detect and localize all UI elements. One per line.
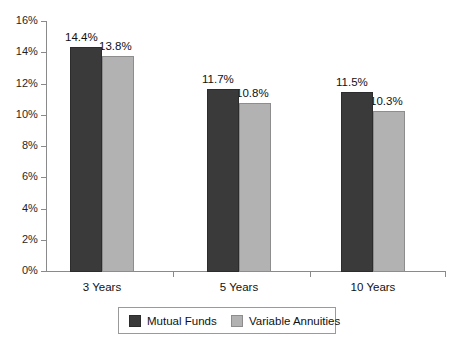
bar — [102, 56, 134, 272]
plot-area — [46, 16, 446, 272]
y-axis-tick-label: 16% — [0, 15, 38, 26]
legend-swatch-icon — [129, 315, 141, 327]
bar — [239, 103, 271, 272]
legend-entry-variable-annuities: Variable Annuities — [231, 314, 340, 328]
y-axis-tick-label: 10% — [0, 109, 38, 120]
y-axis-tick-label: 12% — [0, 78, 38, 89]
bar — [373, 111, 405, 272]
bar-chart: 0%2%4%6%8%10%12%14%16% 14.4%13.8%11.7%10… — [0, 0, 457, 348]
bar-value-label: 10.3% — [370, 95, 403, 107]
legend-swatch-icon — [231, 315, 243, 327]
bar — [341, 92, 373, 272]
bar-value-label: 13.8% — [99, 40, 132, 52]
bar — [207, 89, 239, 272]
legend-label: Mutual Funds — [147, 315, 217, 327]
y-axis-tick-label: 6% — [0, 171, 38, 182]
bar-value-label: 14.4% — [65, 31, 98, 43]
chart-legend: Mutual Funds Variable Annuities — [118, 307, 336, 334]
legend-entry-mutual-funds: Mutual Funds — [129, 314, 217, 328]
y-axis-tick-label: 2% — [0, 234, 38, 245]
category-label: 10 Years — [333, 281, 413, 293]
bar-value-label: 11.7% — [202, 73, 234, 85]
category-label: 3 Years — [62, 281, 142, 293]
y-axis-tick-label: 0% — [0, 265, 38, 276]
category-label: 5 Years — [199, 281, 279, 293]
bar-value-label: 10.8% — [236, 87, 269, 99]
bar-value-label: 11.5% — [336, 76, 368, 88]
legend-label: Variable Annuities — [249, 315, 340, 327]
y-axis-tick-label: 8% — [0, 140, 38, 151]
y-axis-tick-label: 14% — [0, 46, 38, 57]
y-axis-tick-label: 4% — [0, 203, 38, 214]
bar — [70, 47, 102, 272]
